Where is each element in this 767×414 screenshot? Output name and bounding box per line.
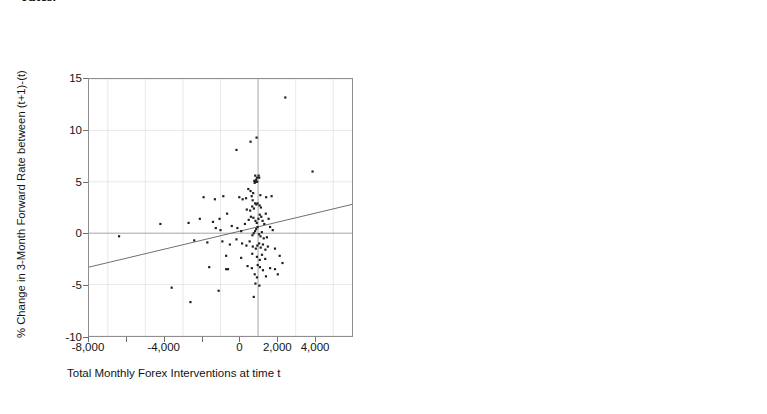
chart-panel-right: % Change in Average Monthly Spot Rate be… [384,0,767,414]
scatter-plot-left [89,79,352,336]
y-tick-label: -5 [52,279,82,291]
y-tick-label: 15 [52,72,82,84]
x-tick-label: 4,000 [301,341,330,353]
plot-frame-left [88,78,353,337]
x-tick-mark [126,337,127,342]
y-axis-label-left: % Change in 3-Month Forward Rate between… [12,18,30,338]
y-tick-label: 0 [52,227,82,239]
x-tick-label: -8,000 [72,341,105,353]
x-tick-label: 0 [236,341,242,353]
x-axis-label-left: Total Monthly Forex Interventions at tim… [67,367,280,379]
x-tick-label: 2,000 [263,341,292,353]
y-tick-label: 10 [52,124,82,136]
x-tick-label: -4,000 [147,341,180,353]
chart-panel-left: % Change in 3-Month Forward Rate between… [0,0,383,414]
x-tick-mark [202,337,203,342]
y-tick-label: 5 [52,176,82,188]
